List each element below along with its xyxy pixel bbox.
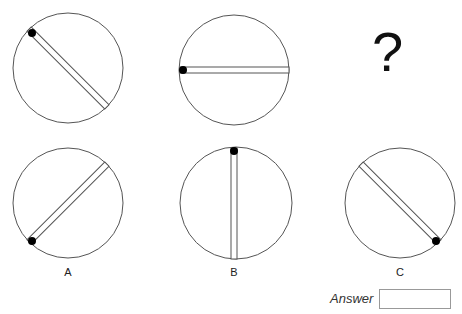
answer-label: Answer xyxy=(330,291,373,306)
question-mark: ? xyxy=(372,24,403,80)
dot-marker xyxy=(230,147,238,155)
dot-marker xyxy=(432,237,440,245)
option-b-figure[interactable] xyxy=(180,147,292,259)
dot-marker xyxy=(28,29,36,37)
dot-marker xyxy=(28,237,36,245)
sequence-figure-2 xyxy=(179,15,289,125)
sequence-figure-1 xyxy=(13,13,123,123)
option-a-figure[interactable] xyxy=(13,148,123,258)
option-c-label[interactable]: C xyxy=(390,266,410,278)
option-b-label[interactable]: B xyxy=(224,266,244,278)
option-a-label[interactable]: A xyxy=(58,266,78,278)
answer-input[interactable] xyxy=(379,289,451,309)
dot-marker xyxy=(179,66,187,74)
option-c-figure[interactable] xyxy=(345,148,455,258)
